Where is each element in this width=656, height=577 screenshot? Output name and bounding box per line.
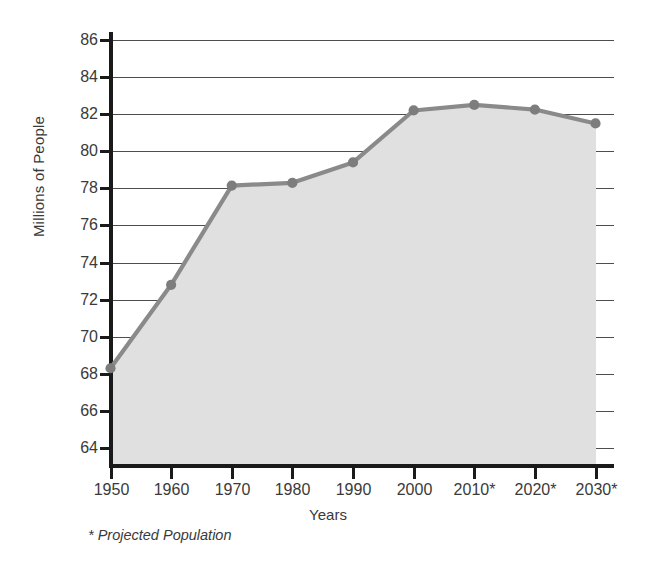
- x-tick-label: 2030*: [552, 481, 642, 499]
- population-line-chart: Millions of People 868482807876747270686…: [0, 0, 656, 577]
- x-tick-labels: 1950196019701980199020002010*2020*2030*: [0, 0, 656, 577]
- chart-footnote: * Projected Population: [88, 527, 232, 543]
- x-axis-title: Years: [0, 506, 656, 523]
